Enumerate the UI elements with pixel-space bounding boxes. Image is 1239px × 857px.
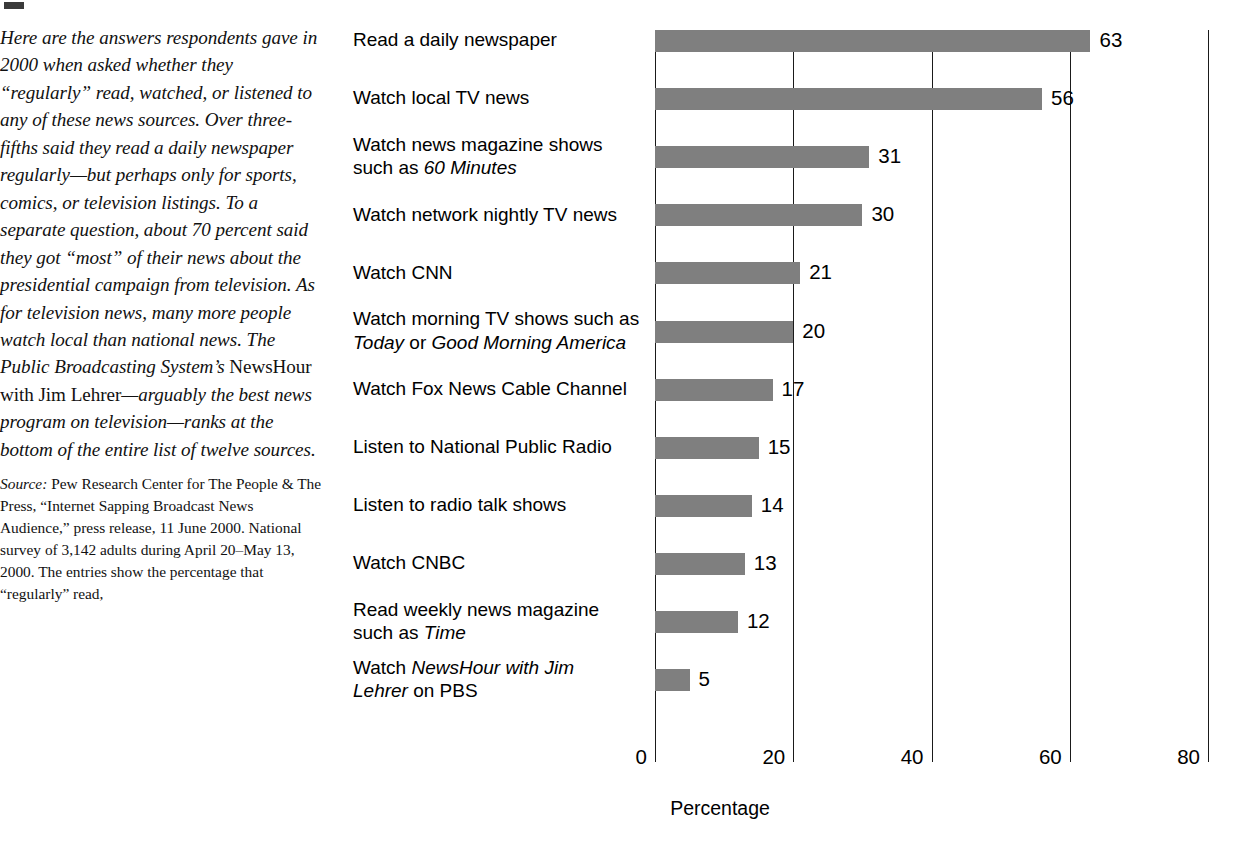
bar-row: 56Watch local TV news [335, 88, 1239, 110]
category-label-text-part: Listen to National Public Radio [353, 436, 612, 457]
category-label-text-part: Watch [353, 657, 411, 678]
bar-row: 12Read weekly news magazinesuch as Time [335, 611, 1239, 633]
bar-value-label: 5 [699, 668, 710, 690]
category-label-line: Watch network nightly TV news [353, 203, 645, 227]
article-text-column: Here are the answers respondents gave in… [0, 24, 322, 857]
category-label-italic-part: Time [424, 622, 466, 643]
category-label-line: Read a daily newspaper [353, 28, 645, 52]
category-label-text-part: such as [353, 157, 424, 178]
category-label-line: Listen to National Public Radio [353, 435, 645, 459]
bar [655, 321, 793, 343]
bar [655, 262, 800, 284]
category-label: Read weekly news magazinesuch as Time [353, 598, 645, 645]
x-tick-label-60: 60 [1010, 745, 1062, 769]
bar [655, 146, 869, 168]
category-label-text-part: Watch morning TV shows such as [353, 308, 639, 329]
category-label-text-part: Watch network nightly TV news [353, 204, 617, 225]
bar-row: 20Watch morning TV shows such asToday or… [335, 321, 1239, 343]
bar [655, 611, 738, 633]
bar [655, 553, 745, 575]
category-label-italic-part: 60 Minutes [424, 157, 517, 178]
category-label-italic-part: Lehrer [353, 680, 408, 701]
bar [655, 88, 1042, 110]
bar-row: 30Watch network nightly TV news [335, 204, 1239, 226]
category-label-line: such as 60 Minutes [353, 156, 645, 180]
category-label: Watch local TV news [353, 86, 645, 110]
category-label: Watch CNBC [353, 551, 645, 575]
bar-value-label: 63 [1099, 29, 1122, 51]
bar-row: 21Watch CNN [335, 262, 1239, 284]
source-note-text: Pew Research Center for The People & The… [0, 475, 321, 602]
bar-value-label: 14 [761, 494, 784, 516]
body-text-part-1: Here are the answers respondents gave in… [0, 27, 317, 377]
bar-value-label: 13 [754, 552, 777, 574]
category-label-line: Watch Fox News Cable Channel [353, 377, 645, 401]
category-label-line: Today or Good Morning America [353, 331, 645, 355]
category-label: Watch NewsHour with JimLehrer on PBS [353, 656, 645, 703]
bar [655, 495, 752, 517]
x-tick-label-0: 0 [595, 745, 647, 769]
bar-value-label: 20 [802, 320, 825, 342]
x-axis-title-text: Percentage [670, 797, 770, 819]
bar-value-label: 30 [871, 203, 894, 225]
category-label: Watch Fox News Cable Channel [353, 377, 645, 401]
category-label-text-part: Read a daily newspaper [353, 29, 557, 50]
bar-value-label: 15 [768, 436, 791, 458]
category-label-text-part: Watch Fox News Cable Channel [353, 378, 627, 399]
category-label-text-part: Watch CNN [353, 262, 453, 283]
bar-value-label: 31 [878, 145, 901, 167]
bar-row: 15Listen to National Public Radio [335, 437, 1239, 459]
category-label-text-part: Watch CNBC [353, 552, 465, 573]
bar [655, 204, 862, 226]
bar-chart: 63Read a daily newspaper56Watch local TV… [335, 0, 1239, 857]
bar-value-label: 56 [1051, 87, 1074, 109]
category-label-text-part: Watch news magazine shows [353, 134, 603, 155]
category-label: Watch CNN [353, 261, 645, 285]
category-label-line: Listen to radio talk shows [353, 493, 645, 517]
category-label: Read a daily newspaper [353, 28, 645, 52]
category-label-text-part: Watch local TV news [353, 87, 529, 108]
category-label-text-part: on PBS [408, 680, 478, 701]
category-label: Listen to radio talk shows [353, 493, 645, 517]
category-label-line: Watch morning TV shows such as [353, 307, 645, 331]
bar-row: 17Watch Fox News Cable Channel [335, 379, 1239, 401]
category-label-line: Read weekly news magazine [353, 598, 645, 622]
bar-row: 5Watch NewsHour with JimLehrer on PBS [335, 669, 1239, 691]
category-label: Watch news magazine showssuch as 60 Minu… [353, 133, 645, 180]
bar-row: 31Watch news magazine showssuch as 60 Mi… [335, 146, 1239, 168]
category-label-italic-part: Good Morning America [432, 332, 627, 353]
bar [655, 30, 1090, 52]
category-label: Watch network nightly TV news [353, 203, 645, 227]
category-label-italic-part: Today [353, 332, 404, 353]
category-label-line: Watch NewsHour with Jim [353, 656, 645, 680]
source-note: Source: Pew Research Center for The Peop… [0, 473, 322, 604]
category-label-line: such as Time [353, 621, 645, 645]
source-note-label: Source: [0, 475, 47, 492]
bar-value-label: 21 [809, 261, 832, 283]
category-label-text-part: Read weekly news magazine [353, 599, 599, 620]
bar [655, 669, 690, 691]
category-label-line: Watch news magazine shows [353, 133, 645, 157]
bar-row: 63Read a daily newspaper [335, 30, 1239, 52]
category-label: Listen to National Public Radio [353, 435, 645, 459]
page-edge-mark [4, 2, 24, 9]
bar [655, 437, 759, 459]
bar-row: 14Listen to radio talk shows [335, 495, 1239, 517]
category-label-line: Lehrer on PBS [353, 679, 645, 703]
x-tick-label-80: 80 [1148, 745, 1200, 769]
category-label-text-part: or [404, 332, 431, 353]
bar [655, 379, 773, 401]
category-label-line: Watch CNBC [353, 551, 645, 575]
bar-value-label: 17 [782, 378, 805, 400]
chart-plot-area: 63Read a daily newspaper56Watch local TV… [335, 0, 1239, 857]
bar-row: 13Watch CNBC [335, 553, 1239, 575]
x-tick-label-20: 20 [733, 745, 785, 769]
category-label-italic-part: NewsHour with Jim [411, 657, 574, 678]
category-label-line: Watch local TV news [353, 86, 645, 110]
article-body-paragraph: Here are the answers respondents gave in… [0, 24, 322, 463]
bar-value-label: 12 [747, 610, 770, 632]
x-axis-title: Percentage [335, 797, 1239, 820]
category-label: Watch morning TV shows such asToday or G… [353, 307, 645, 354]
category-label-text-part: such as [353, 622, 424, 643]
x-tick-label-40: 40 [872, 745, 924, 769]
